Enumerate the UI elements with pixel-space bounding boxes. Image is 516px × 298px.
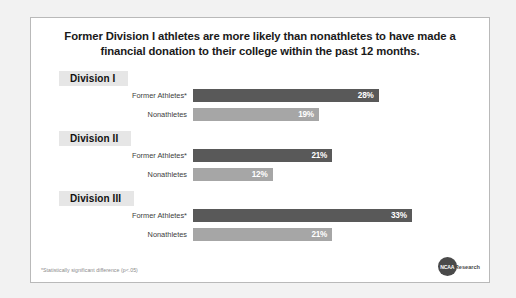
bar-rows: Former Athletes*21%Nonathletes12%	[31, 149, 489, 181]
bar-track: 21%	[193, 149, 489, 162]
bar-row: Nonathletes19%	[31, 108, 489, 121]
bar-value-label: 21%	[311, 230, 332, 239]
bar-category-label: Former Athletes*	[31, 151, 193, 160]
bar-category-label: Nonathletes	[31, 230, 193, 239]
bar-value-label: 19%	[298, 110, 319, 119]
bar-value-label: 12%	[252, 170, 273, 179]
bar-category-label: Nonathletes	[31, 110, 193, 119]
ncaa-research-logo: NCAA Research	[438, 257, 480, 276]
bar-track: 28%	[193, 89, 489, 102]
bar-track: 33%	[193, 209, 489, 222]
bar: 19%	[193, 108, 319, 121]
bar: 21%	[193, 149, 332, 162]
bar: 21%	[193, 228, 332, 241]
bar-group: Division IIFormer Athletes*21%Nonathlete…	[31, 128, 489, 181]
bar: 33%	[193, 209, 412, 222]
bar-track: 21%	[193, 228, 489, 241]
bar-value-label: 33%	[391, 211, 412, 220]
bar-rows: Former Athletes*33%Nonathletes21%	[31, 209, 489, 241]
bar-row: Nonathletes21%	[31, 228, 489, 241]
research-logo-text: Research	[455, 264, 480, 270]
bar-track: 19%	[193, 108, 489, 121]
group-header-2: Division II	[59, 131, 131, 146]
bar-category-label: Nonathletes	[31, 170, 193, 179]
bar-chart: Division IFormer Athletes*28%Nonathletes…	[31, 68, 489, 241]
bar-group: Division IFormer Athletes*28%Nonathletes…	[31, 68, 489, 121]
bar-category-label: Former Athletes*	[31, 211, 193, 220]
bar: 12%	[193, 168, 273, 181]
bar-row: Former Athletes*21%	[31, 149, 489, 162]
bar-row: Nonathletes12%	[31, 168, 489, 181]
bar-category-label: Former Athletes*	[31, 91, 193, 100]
bar-track: 12%	[193, 168, 489, 181]
ncaa-logo-text: NCAA	[440, 264, 454, 270]
bar-value-label: 28%	[358, 91, 379, 100]
slide-frame: Former Division I athletes are more like…	[30, 17, 490, 283]
page-title: Former Division I athletes are more like…	[51, 29, 469, 59]
bar-row: Former Athletes*28%	[31, 89, 489, 102]
group-header-3: Division III	[59, 191, 134, 206]
bar-group: Division IIIFormer Athletes*33%Nonathlet…	[31, 188, 489, 241]
group-header-1: Division I	[59, 71, 128, 86]
bar-value-label: 21%	[311, 151, 332, 160]
bar-row: Former Athletes*33%	[31, 209, 489, 222]
bar: 28%	[193, 89, 379, 102]
bar-rows: Former Athletes*28%Nonathletes19%	[31, 89, 489, 121]
footnote: *Statistically significant difference (p…	[41, 267, 138, 273]
